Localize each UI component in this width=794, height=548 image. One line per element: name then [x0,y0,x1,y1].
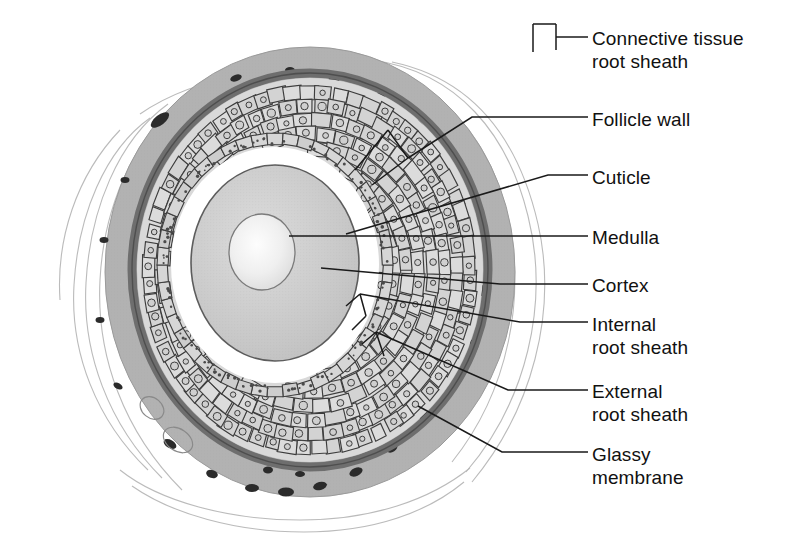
sheath-cell-nucleus [435,373,442,380]
stipple-dot [263,384,266,387]
stipple-dot [178,319,181,322]
stipple-dot [376,298,379,301]
sheath-cell-nucleus [462,225,469,232]
sheath-cell-nucleus [380,393,388,401]
sheath-cell-nucleus [400,355,407,362]
stipple-dot [376,228,378,230]
sheath-cell-nucleus [467,277,474,284]
stipple-dot [252,142,254,144]
sheath-cell-nucleus [364,405,369,410]
medulla [229,214,295,290]
stipple-dot [166,287,170,291]
sheath-cell-nucleus [294,417,301,424]
sheath-cell-nucleus [362,353,370,361]
sheath-cell-nucleus [437,188,445,196]
sheath-cell-nucleus [426,334,432,340]
stipple-dot [197,171,200,174]
stipple-dot [190,344,193,347]
label-external-root-sheath: External root sheath [592,380,688,426]
stipple-dot [177,199,180,202]
stipple-dot [321,375,324,378]
sheath-cell-nucleus [365,369,373,377]
stipple-dot [372,313,374,315]
sheath-cell-nucleus [375,411,383,419]
stipple-dot [237,378,239,380]
stipple-dot [381,281,385,285]
stipple-dot [184,190,187,193]
sheath-cell-nucleus [367,132,374,139]
label-internal-root-sheath: Internal root sheath [592,313,688,359]
stipple-dot [371,325,374,328]
sheath-cell-nucleus [396,195,404,203]
internal-sheath-flat-cell [267,133,283,144]
stipple-dot [212,364,215,367]
sheath-cell-nucleus [443,332,449,338]
sheath-cell-nucleus [279,415,286,422]
stipple-dot [163,262,165,264]
sheath-cell-nucleus [371,380,378,387]
sheath-cell-nucleus [261,97,267,103]
stipple-dot [172,224,175,227]
diagram-canvas: Connective tissue root sheath Follicle w… [0,0,794,548]
sheath-cell-nucleus [301,102,308,109]
sheath-cell-nucleus [454,242,461,249]
stipple-dot [271,142,273,144]
sheath-cell-nucleus [406,216,412,222]
sheath-cell-nucleus [424,237,431,244]
stipple-dot [326,376,328,378]
stipple-dot [372,202,374,204]
stipple-dot [352,178,354,180]
sheath-cell-nucleus [404,322,411,329]
sheath-cell-nucleus [152,313,159,320]
sheath-cell [312,439,328,454]
stipple-dot [250,384,253,387]
stipple-dot [313,147,316,150]
sheath-cell-nucleus [352,155,357,160]
stipple-dot [207,366,209,368]
stipple-dot [227,374,230,377]
sheath-cell-nucleus [347,425,353,431]
sheath-cell-nucleus [402,257,408,263]
sheath-cell-nucleus [453,345,459,351]
sheath-cell-nucleus [205,130,212,137]
sheath-cell-nucleus [444,208,452,216]
stipple-dot [381,286,383,288]
sheath-cell-nucleus [408,145,416,153]
sheath-cell-nucleus [340,136,348,144]
stipple-dot [234,145,236,147]
stipple-dot [326,158,329,161]
label-medulla: Medulla [592,226,659,249]
stipple-dot [369,197,371,199]
label-cortex: Cortex [592,274,649,297]
stipple-dot [166,232,169,235]
stipple-dot [354,347,356,349]
label-cuticle: Cuticle [592,166,651,189]
stipple-dot [299,387,301,389]
sheath-cell-nucleus [285,105,291,111]
stipple-dot [166,255,169,258]
sheath-cell-nucleus [246,102,252,108]
sheath-cell-nucleus [400,303,405,308]
stipple-dot [343,163,346,166]
stipple-dot [381,225,385,229]
internal-sheath-flat-cell [267,387,283,397]
sheath-cell-nucleus [390,323,397,330]
bracket-connective-tissue [533,24,556,52]
sheath-cell-nucleus [299,117,306,124]
sheath-cell-nucleus [425,362,431,368]
stipple-dot [330,373,332,375]
sheath-cell-nucleus [423,218,429,224]
sheath-cell-nucleus [382,108,388,114]
stipple-dot [353,355,355,357]
stipple-dot [256,140,258,142]
stipple-dot [360,181,363,184]
stipple-dot [242,145,245,148]
stipple-dot [173,217,176,220]
sheath-cell-nucleus [337,400,344,407]
sheath-cell-nucleus [295,430,303,438]
sheath-cell-nucleus [438,239,445,246]
sheath-cell-nucleus [221,119,227,125]
sheath-cell-nucleus [412,401,418,407]
stipple-dot [184,338,187,341]
stipple-dot [255,384,258,387]
